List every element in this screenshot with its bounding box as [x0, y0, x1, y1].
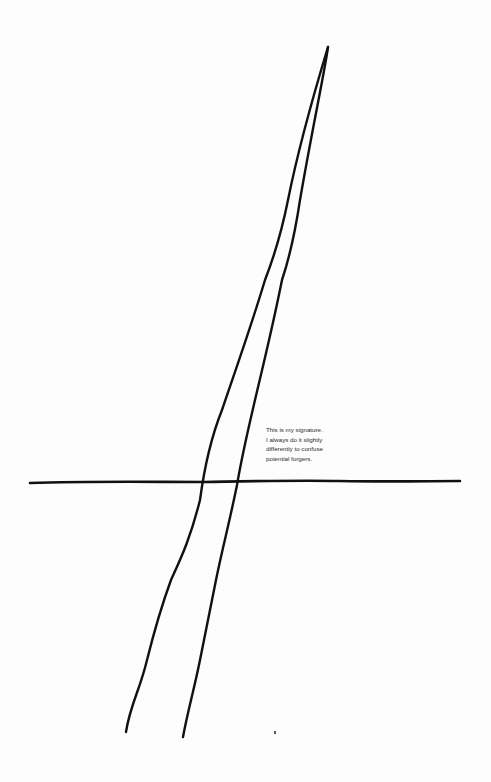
caption-line-2: I always do it slightly — [266, 435, 366, 445]
caption-line-1: This is my signature. — [266, 425, 366, 435]
signature-stroke-right — [183, 47, 328, 737]
signature-drawing — [0, 0, 491, 782]
signature-caption: This is my signature. I always do it sli… — [266, 425, 366, 463]
caption-line-3: differently to confuse — [266, 444, 366, 454]
signature-line — [30, 481, 460, 483]
caption-line-4: potential forgers. — [266, 454, 366, 464]
ink-speck — [274, 731, 276, 734]
page: This is my signature. I always do it sli… — [0, 0, 491, 782]
signature-stroke-left — [126, 47, 328, 732]
